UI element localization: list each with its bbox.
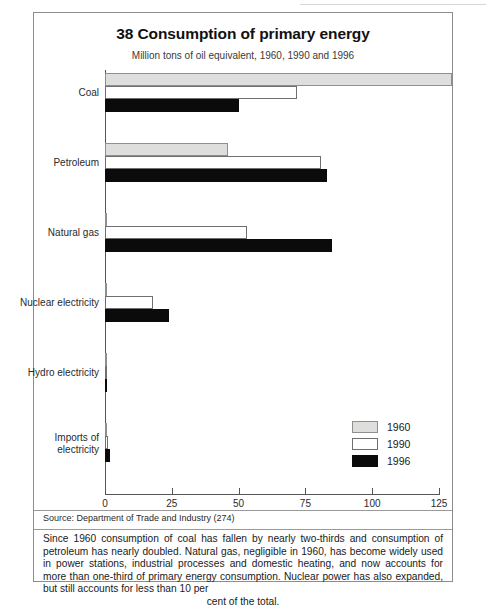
x-axis-tick (439, 488, 440, 495)
figure-subtitle: Million tons of oil equivalent, 1960, 19… (34, 50, 452, 61)
bar-1996-coal (105, 99, 239, 112)
category-label: Nuclear electricity (0, 297, 99, 309)
legend-swatch-1996 (352, 455, 378, 467)
x-axis-line (105, 494, 439, 495)
bar-1996-petroleum (105, 169, 327, 182)
bar-1960-coal (105, 73, 452, 86)
x-axis-tick-label: 25 (166, 498, 177, 509)
bar-1960-hydro-electricity (105, 353, 107, 366)
x-axis-tick-label: 0 (102, 498, 108, 509)
legend-item: 1990 (352, 435, 444, 452)
bar-1960-natural-gas (105, 213, 107, 226)
category-label: Imports of electricity (0, 432, 99, 455)
category-label: Hydro electricity (0, 367, 99, 379)
legend-item: 1960 (352, 418, 444, 435)
note-divider (34, 529, 452, 530)
bar-1990-imports-of-electricity (105, 436, 108, 449)
category-label: Coal (0, 87, 99, 99)
x-axis-tick (305, 488, 306, 495)
figure-panel: 38 Consumption of primary energy Million… (33, 12, 453, 582)
bar-1990-hydro-electricity (105, 366, 107, 379)
x-axis-tick-label: 50 (233, 498, 244, 509)
figure-title: 38 Consumption of primary energy (34, 25, 452, 43)
bar-1996-nuclear-electricity (105, 309, 169, 322)
source-divider (34, 510, 452, 511)
source-text: Source: Department of Trade and Industry… (43, 513, 235, 523)
bar-1960-imports-of-electricity (105, 423, 107, 436)
figure-note: Since 1960 consumption of coal has falle… (43, 533, 443, 605)
legend-label-1996: 1996 (387, 455, 410, 467)
legend-swatch-1960 (352, 421, 378, 433)
legend-label-1960: 1960 (387, 421, 410, 433)
legend-swatch-1990 (352, 438, 378, 450)
x-axis-tick (172, 488, 173, 495)
x-axis-tick-label: 75 (300, 498, 311, 509)
x-axis-tick-label: 100 (364, 498, 381, 509)
chart-legend: 1960 1990 1996 (352, 418, 444, 469)
bar-1996-hydro-electricity (105, 379, 107, 392)
legend-label-1990: 1990 (387, 438, 410, 450)
category-label: Petroleum (0, 157, 99, 169)
scan-artifact-line (300, 4, 486, 5)
bar-1996-imports-of-electricity (105, 449, 110, 462)
bar-chart-plot: 0255075100125 CoalPetroleumNatural gasNu… (34, 63, 454, 503)
bar-1996-natural-gas (105, 239, 332, 252)
bar-1990-coal (105, 86, 297, 99)
note-body: Since 1960 consumption of coal has falle… (43, 533, 443, 594)
x-axis-tick (239, 488, 240, 495)
x-axis-tick (372, 488, 373, 495)
bar-1960-petroleum (105, 143, 228, 156)
bar-1990-nuclear-electricity (105, 296, 153, 309)
note-last-line: cent of the total. (43, 596, 443, 605)
category-label: Natural gas (0, 227, 99, 239)
bar-1960-nuclear-electricity (105, 283, 107, 296)
x-axis-tick-label: 125 (431, 498, 448, 509)
x-axis-tick (105, 488, 106, 495)
bar-1990-petroleum (105, 156, 321, 169)
legend-item: 1996 (352, 452, 444, 469)
bar-1990-natural-gas (105, 226, 247, 239)
